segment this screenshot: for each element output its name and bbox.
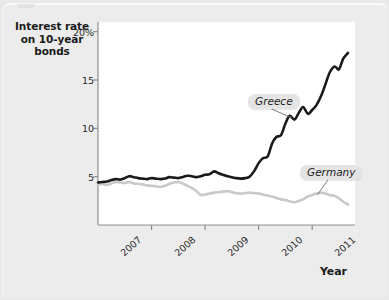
x-tick-label: 2008 <box>172 234 197 258</box>
x-tick-label: 2007 <box>118 234 143 258</box>
line-chart: Interest rate on 10-year bonds Year 20%1… <box>0 0 389 300</box>
x-axis-tick-labels: 20072008200920102011 <box>0 0 389 300</box>
x-tick-label: 2011 <box>332 234 357 258</box>
series-callout-greece: Greece <box>248 94 300 109</box>
x-tick-label: 2009 <box>225 234 250 258</box>
series-callout-germany: Germany <box>300 165 362 180</box>
x-tick-label: 2010 <box>279 234 304 258</box>
